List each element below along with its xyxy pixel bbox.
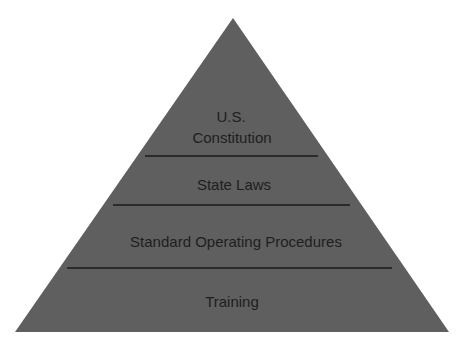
level-3-label: Standard Operating Procedures bbox=[130, 233, 342, 250]
level-1-label-line1: U.S. bbox=[216, 108, 245, 125]
level-2-label: State Laws bbox=[197, 176, 271, 193]
pyramid-shape bbox=[15, 18, 449, 332]
level-1-label-line2: Constitution bbox=[192, 129, 271, 146]
pyramid-diagram: U.S. Constitution State Laws Standard Op… bbox=[0, 0, 465, 351]
level-4-label: Training bbox=[205, 293, 259, 310]
